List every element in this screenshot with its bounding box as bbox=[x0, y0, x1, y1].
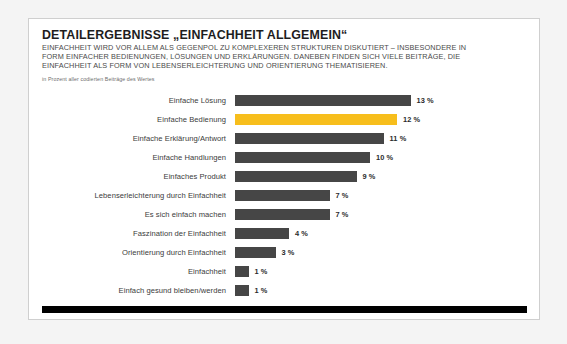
page-title: DETAILERGEBNISSE „EINFACHHEIT ALLGEMEIN“ bbox=[42, 28, 529, 42]
bar-area: 3 % bbox=[235, 243, 529, 262]
slide-canvas: DETAILERGEBNISSE „EINFACHHEIT ALLGEMEIN“… bbox=[0, 0, 567, 344]
bar-area: 4 % bbox=[235, 224, 529, 243]
bar-area: 12 % bbox=[235, 110, 529, 129]
bar-row-label: Einfaches Produkt bbox=[42, 172, 235, 181]
bar-row-label: Einfachheit bbox=[42, 267, 235, 276]
bar-row-label: Einfache Bedienung bbox=[42, 115, 235, 124]
bar-row: Faszination der Einfachheit4 % bbox=[42, 224, 529, 243]
bar-row-label: Orientierung durch Einfachheit bbox=[42, 248, 235, 257]
bar bbox=[235, 209, 330, 220]
bar-value-label: 10 % bbox=[376, 153, 393, 162]
bar-value-label: 12 % bbox=[403, 115, 420, 124]
bar-row-label: Einfache Erklärung/Antwort bbox=[42, 134, 235, 143]
bar-value-label: 4 % bbox=[295, 229, 308, 238]
bar-row: Einfach gesund bleiben/werden1 % bbox=[42, 281, 529, 300]
bar-area: 10 % bbox=[235, 148, 529, 167]
chart-note: in Prozent aller codierten Beiträge des … bbox=[42, 76, 529, 82]
bar bbox=[235, 285, 249, 296]
bar-highlighted bbox=[235, 114, 397, 125]
chart-subtitle: EINFACHHEIT WIRD VOR ALLEM ALS GEGENPOL … bbox=[42, 44, 472, 71]
bar-row-label: Einfache Lösung bbox=[42, 96, 235, 105]
bar-row: Einfache Bedienung12 % bbox=[42, 110, 529, 129]
bar-area: 7 % bbox=[235, 186, 529, 205]
bar-area: 13 % bbox=[235, 91, 529, 110]
bar-area: 9 % bbox=[235, 167, 529, 186]
bar-value-label: 9 % bbox=[363, 172, 376, 181]
bar-value-label: 13 % bbox=[417, 96, 434, 105]
bar-area: 1 % bbox=[235, 281, 529, 300]
bar-row: Einfache Handlungen10 % bbox=[42, 148, 529, 167]
bar-row: Einfache Erklärung/Antwort11 % bbox=[42, 129, 529, 148]
bar bbox=[235, 228, 289, 239]
bar-value-label: 7 % bbox=[336, 191, 349, 200]
bar-row-label: Einfach gesund bleiben/werden bbox=[42, 286, 235, 295]
bar bbox=[235, 152, 370, 163]
bar-area: 7 % bbox=[235, 205, 529, 224]
bar-row: Lebenserleichterung durch Einfachheit7 % bbox=[42, 186, 529, 205]
bar-row-label: Faszination der Einfachheit bbox=[42, 229, 235, 238]
bar-row-label: Lebenserleichterung durch Einfachheit bbox=[42, 191, 235, 200]
bar-area: 1 % bbox=[235, 262, 529, 281]
footer-rule bbox=[42, 306, 527, 313]
bar bbox=[235, 247, 276, 258]
bar bbox=[235, 266, 249, 277]
bar-value-label: 1 % bbox=[255, 267, 268, 276]
bar-row: Einfaches Produkt9 % bbox=[42, 167, 529, 186]
bar-row: Einfache Lösung13 % bbox=[42, 91, 529, 110]
bar-row: Einfachheit1 % bbox=[42, 262, 529, 281]
bar-chart-plot: Einfache Lösung13 %Einfache Bedienung12 … bbox=[42, 91, 529, 291]
bar-value-label: 1 % bbox=[255, 286, 268, 295]
bar-value-label: 11 % bbox=[390, 134, 407, 143]
bar bbox=[235, 95, 411, 106]
bar bbox=[235, 133, 384, 144]
chart-header: DETAILERGEBNISSE „EINFACHHEIT ALLGEMEIN“… bbox=[42, 28, 529, 82]
chart-card: DETAILERGEBNISSE „EINFACHHEIT ALLGEMEIN“… bbox=[28, 18, 540, 320]
bar-value-label: 7 % bbox=[336, 210, 349, 219]
bar bbox=[235, 190, 330, 201]
bar-area: 11 % bbox=[235, 129, 529, 148]
bar bbox=[235, 171, 357, 182]
bar-row: Orientierung durch Einfachheit3 % bbox=[42, 243, 529, 262]
bar-row: Es sich einfach machen7 % bbox=[42, 205, 529, 224]
bar-row-label: Einfache Handlungen bbox=[42, 153, 235, 162]
bar-row-label: Es sich einfach machen bbox=[42, 210, 235, 219]
bar-value-label: 3 % bbox=[282, 248, 295, 257]
